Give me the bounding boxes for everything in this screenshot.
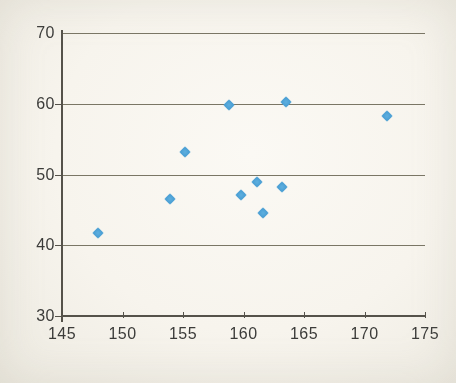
y-tick-label: 70 — [0, 25, 55, 41]
y-axis-line — [61, 30, 63, 322]
data-point-marker — [180, 146, 191, 157]
x-axis-tick — [123, 312, 124, 318]
data-point-marker — [382, 110, 393, 121]
y-tick-label: 30 — [0, 308, 55, 324]
x-tick-label: 145 — [40, 326, 84, 342]
y-gridline — [62, 33, 425, 34]
x-axis-tick — [425, 312, 426, 318]
x-tick-label: 170 — [343, 326, 387, 342]
y-gridline — [62, 104, 425, 105]
data-point-marker — [251, 177, 262, 188]
y-tick-label: 40 — [0, 237, 55, 253]
x-axis-tick — [365, 312, 366, 318]
data-point-marker — [93, 227, 104, 238]
x-tick-label: 155 — [161, 326, 205, 342]
data-point-marker — [235, 189, 246, 200]
data-point-marker — [223, 99, 234, 110]
y-gridline — [62, 175, 425, 176]
x-tick-label: 175 — [403, 326, 447, 342]
x-axis-tick — [183, 312, 184, 318]
x-axis-tick — [304, 312, 305, 318]
y-tick-label: 50 — [0, 167, 55, 183]
y-gridline — [62, 245, 425, 246]
data-point-marker — [280, 97, 291, 108]
y-tick-label: 60 — [0, 96, 55, 112]
x-tick-label: 160 — [222, 326, 266, 342]
plot-area — [62, 33, 425, 316]
x-axis-tick — [244, 312, 245, 318]
data-point-marker — [164, 193, 175, 204]
x-tick-label: 150 — [101, 326, 145, 342]
data-point-marker — [277, 182, 288, 193]
scatter-chart-photo: 3040506070145150155160165170175 — [0, 0, 456, 383]
x-tick-label: 165 — [282, 326, 326, 342]
data-point-marker — [257, 208, 268, 219]
